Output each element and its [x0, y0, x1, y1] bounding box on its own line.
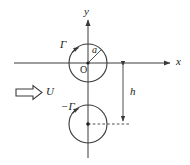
distance-label: h: [130, 86, 136, 97]
freestream-arrow: [16, 86, 42, 100]
circulation-bottom-label: −Γ: [61, 101, 75, 112]
x-axis-label: x: [176, 56, 181, 67]
y-axis-label: y: [84, 6, 89, 17]
circulation-top-label: Γ: [60, 39, 66, 50]
diagram-canvas: [0, 0, 190, 165]
origin-label: O: [80, 65, 87, 75]
freestream-label: U: [46, 86, 54, 97]
radius-label: a: [92, 45, 97, 55]
vortex-cylinder-diagram: y x O a Γ −Γ h U: [0, 0, 190, 165]
